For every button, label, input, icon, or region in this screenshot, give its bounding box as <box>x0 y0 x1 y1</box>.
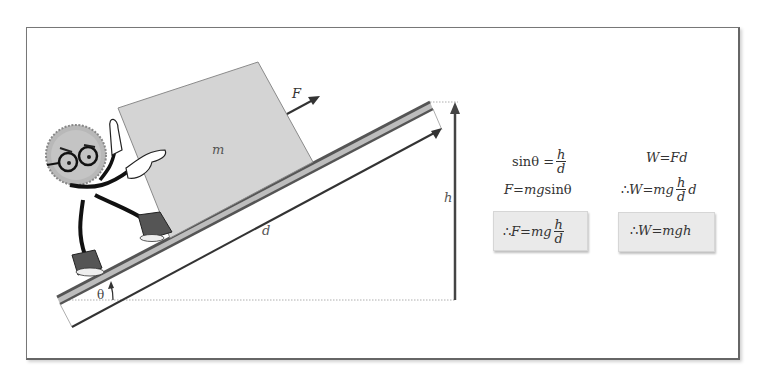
equation-work-result: ∴ W = mgh <box>630 223 691 238</box>
height-label: h <box>444 190 452 205</box>
equation-force-sin: F = mg sinθ <box>504 182 572 197</box>
equation-work-fd: W = Fd <box>646 150 688 165</box>
force-label: F <box>292 86 301 101</box>
distance-label: d <box>262 223 270 238</box>
mass-label: m <box>212 142 224 157</box>
fraction-h-over-d: h d <box>556 148 566 175</box>
equation-sin-theta: sinθ = h d <box>512 148 568 175</box>
equation-force-result: ∴ F = mg h d <box>503 218 566 245</box>
angle-label: θ <box>97 288 104 302</box>
equation-work-substituted: ∴ W = mg h d d <box>621 176 697 203</box>
